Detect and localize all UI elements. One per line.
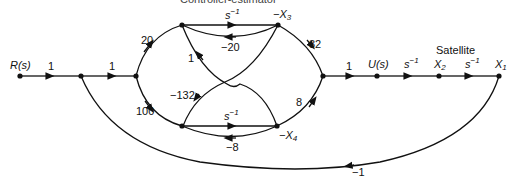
gain-lower-integrator: s−1 [224, 111, 239, 122]
gain-20: 20 [141, 35, 153, 46]
caption-satellite: Satellite [436, 45, 475, 56]
gain-r-n1: 1 [48, 61, 54, 72]
gain-minus8: −8 [226, 142, 239, 153]
gain-x2-x1: s−1 [465, 59, 480, 70]
gain-1-cross: 1 [188, 53, 194, 64]
node-label-u: U(s) [368, 59, 389, 70]
gain-8: 8 [296, 97, 302, 108]
caption-controller-estimator: Controller-estimator [180, 0, 277, 5]
branch-minus1 [81, 76, 499, 169]
node-label-r: R(s) [10, 60, 31, 71]
gain-u-x2: s−1 [404, 59, 419, 70]
gain-n1-n2: 1 [109, 61, 115, 72]
gain-upper-integrator: s−1 [225, 10, 240, 21]
node-label-x3: −X3 [273, 9, 291, 20]
branch-100 [136, 76, 182, 126]
gain-minus20: −20 [221, 42, 240, 53]
gain-minus132: −132 [170, 90, 195, 101]
node-label-x1: X1 [495, 59, 507, 70]
gain-100: 100 [136, 106, 154, 117]
node-label-x2: X2 [434, 59, 446, 70]
branch-20 [136, 25, 182, 76]
gain-merge-u: 1 [346, 61, 352, 72]
gain-minus1: −1 [352, 167, 365, 178]
gain-32: 32 [309, 39, 321, 50]
node-label-x4: −X4 [279, 130, 297, 141]
signal-flow-graph [0, 0, 516, 182]
